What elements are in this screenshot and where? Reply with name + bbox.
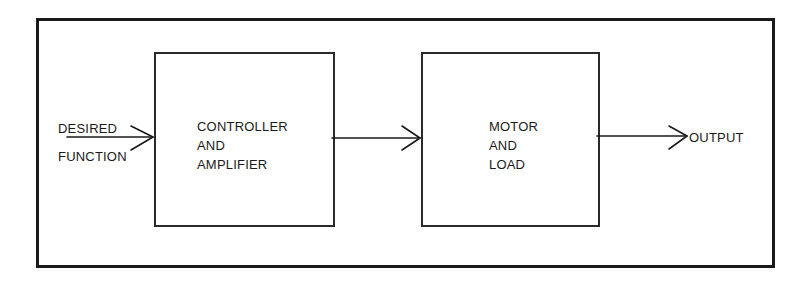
output-label: OUTPUT [689, 130, 744, 145]
motor-label-line-1: MOTOR [489, 117, 538, 136]
controller-label-line-1: CONTROLLER [197, 117, 288, 136]
input-label-function: FUNCTION [58, 149, 127, 164]
controller-label-line-2: AND [197, 136, 288, 155]
motor-load-label: MOTOR AND LOAD [489, 117, 538, 174]
diagram-frame [36, 18, 775, 268]
motor-label-line-2: AND [489, 136, 538, 155]
controller-amplifier-label: CONTROLLER AND AMPLIFIER [197, 117, 288, 174]
controller-label-line-3: AMPLIFIER [197, 155, 288, 174]
input-label-desired: DESIRED [58, 121, 117, 136]
motor-label-line-3: LOAD [489, 155, 538, 174]
